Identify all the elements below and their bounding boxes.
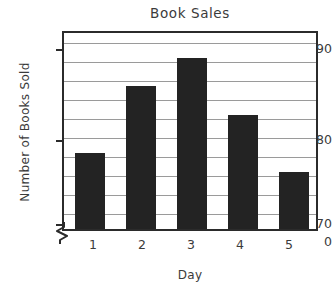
x-axis-title: Day <box>62 268 318 282</box>
x-tick-label-day-2: 2 <box>122 237 162 252</box>
x-tick-label-day-3: 3 <box>171 237 211 252</box>
plot-area <box>62 31 318 231</box>
axis-break-zigzag-icon <box>55 222 69 244</box>
y-tick-label-80: 80 <box>298 132 332 147</box>
bar-day-1[interactable] <box>75 153 105 229</box>
bar-day-4[interactable] <box>228 115 258 229</box>
y-axis-ticks <box>0 0 62 290</box>
bar-day-2[interactable] <box>126 86 156 229</box>
y-tick-label-90: 90 <box>298 41 332 56</box>
chart-title: Book Sales <box>62 5 318 21</box>
y-tick-mark <box>56 140 62 142</box>
x-tick-label-day-1: 1 <box>73 237 113 252</box>
x-tick-label-day-4: 4 <box>220 237 260 252</box>
bar-day-3[interactable] <box>177 58 207 229</box>
x-tick-label-day-5: 5 <box>269 237 309 252</box>
y-tick-mark <box>56 49 62 51</box>
y-tick-label-70: 70 <box>298 216 332 231</box>
bars-layer <box>64 33 316 229</box>
bar-chart-figure: Book Sales Number of Books Sold 9080700 … <box>0 0 332 290</box>
